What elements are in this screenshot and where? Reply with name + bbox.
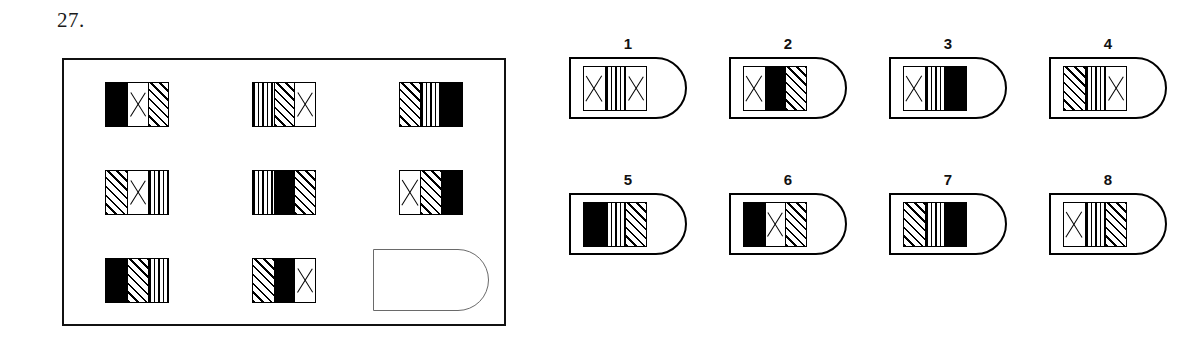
question-number: 27. <box>57 8 85 33</box>
matrix-figure-row3-col1 <box>105 258 169 303</box>
answer-option-7[interactable]: 7 <box>868 172 1028 292</box>
matrix-figure-row1-col2 <box>252 82 316 127</box>
band-black <box>584 203 605 246</box>
option-label-6: 6 <box>784 172 792 187</box>
empty-answer-slot[interactable] <box>373 249 489 311</box>
band-diagonal <box>625 203 646 246</box>
answer-options: 1234 5678 <box>548 36 1188 326</box>
option-capsule-4[interactable] <box>1049 57 1167 119</box>
band-vertical <box>605 203 626 246</box>
option-label-1: 1 <box>624 36 632 51</box>
band-diagonal <box>400 83 421 126</box>
band-vertical <box>420 83 441 126</box>
option-row-bottom: 5678 <box>548 172 1188 292</box>
answer-option-5[interactable]: 5 <box>548 172 708 292</box>
matrix-cell-row2-col1 <box>64 148 211 236</box>
matrix-figure-row3-col2 <box>252 258 316 303</box>
band-vertical <box>148 259 169 302</box>
band-diagonal <box>274 83 295 126</box>
band-diagonal <box>106 171 127 214</box>
band-cross <box>625 67 646 110</box>
answer-option-2[interactable]: 2 <box>708 36 868 156</box>
band-black <box>765 67 786 110</box>
band-cross <box>904 67 925 110</box>
band-vertical <box>925 67 946 110</box>
option-capsule-6[interactable] <box>729 193 847 255</box>
option-figure-1 <box>583 66 647 111</box>
option-label-4: 4 <box>1104 36 1112 51</box>
option-figure-5 <box>583 202 647 247</box>
band-diagonal <box>253 259 274 302</box>
band-cross <box>294 83 315 126</box>
option-capsule-1[interactable] <box>569 57 687 119</box>
answer-option-8[interactable]: 8 <box>1028 172 1188 292</box>
band-black <box>441 83 462 126</box>
band-diagonal <box>904 203 925 246</box>
option-label-7: 7 <box>944 172 952 187</box>
option-capsule-7[interactable] <box>889 193 1007 255</box>
option-figure-6 <box>743 202 807 247</box>
matrix-figure-row2-col1 <box>105 170 169 215</box>
band-vertical <box>148 171 169 214</box>
band-cross <box>744 67 765 110</box>
band-diagonal <box>148 83 169 126</box>
matrix-figure-row1-col3 <box>399 82 463 127</box>
option-figure-8 <box>1063 202 1127 247</box>
band-cross <box>1105 67 1126 110</box>
band-black <box>106 83 127 126</box>
band-vertical <box>605 67 626 110</box>
option-row-top: 1234 <box>548 36 1188 156</box>
option-figure-4 <box>1063 66 1127 111</box>
band-cross <box>127 171 148 214</box>
option-figure-3 <box>903 66 967 111</box>
band-vertical <box>925 203 946 246</box>
band-diagonal <box>785 67 806 110</box>
matrix-panel <box>62 58 506 326</box>
option-label-3: 3 <box>944 36 952 51</box>
matrix-grid <box>64 60 504 324</box>
matrix-cell-row2-col2 <box>211 148 358 236</box>
band-vertical <box>1085 67 1106 110</box>
band-diagonal <box>420 171 441 214</box>
option-label-5: 5 <box>624 172 632 187</box>
matrix-cell-row1-col2 <box>211 60 358 148</box>
band-black <box>274 171 295 214</box>
matrix-figure-row1-col1 <box>105 82 169 127</box>
band-black <box>274 259 295 302</box>
matrix-figure-row2-col2 <box>252 170 316 215</box>
band-black <box>441 171 462 214</box>
matrix-cell-row1-col1 <box>64 60 211 148</box>
option-figure-7 <box>903 202 967 247</box>
answer-option-1[interactable]: 1 <box>548 36 708 156</box>
matrix-cell-row3-col3 <box>357 236 504 324</box>
band-cross <box>1064 203 1085 246</box>
option-figure-2 <box>743 66 807 111</box>
band-diagonal <box>294 171 315 214</box>
band-diagonal <box>1064 67 1085 110</box>
band-cross <box>400 171 421 214</box>
band-black <box>945 203 966 246</box>
band-vertical <box>1085 203 1106 246</box>
matrix-cell-row3-col2 <box>211 236 358 324</box>
option-capsule-2[interactable] <box>729 57 847 119</box>
band-diagonal <box>1105 203 1126 246</box>
option-label-8: 8 <box>1104 172 1112 187</box>
band-cross <box>765 203 786 246</box>
matrix-figure-row2-col3 <box>399 170 463 215</box>
band-cross <box>584 67 605 110</box>
band-black <box>945 67 966 110</box>
option-capsule-5[interactable] <box>569 193 687 255</box>
answer-option-4[interactable]: 4 <box>1028 36 1188 156</box>
band-diagonal <box>785 203 806 246</box>
option-label-2: 2 <box>784 36 792 51</box>
band-vertical <box>253 83 274 126</box>
band-diagonal <box>127 259 148 302</box>
band-vertical <box>253 171 274 214</box>
option-capsule-3[interactable] <box>889 57 1007 119</box>
band-black <box>744 203 765 246</box>
option-capsule-8[interactable] <box>1049 193 1167 255</box>
answer-option-6[interactable]: 6 <box>708 172 868 292</box>
band-cross <box>294 259 315 302</box>
answer-option-3[interactable]: 3 <box>868 36 1028 156</box>
matrix-cell-row2-col3 <box>357 148 504 236</box>
